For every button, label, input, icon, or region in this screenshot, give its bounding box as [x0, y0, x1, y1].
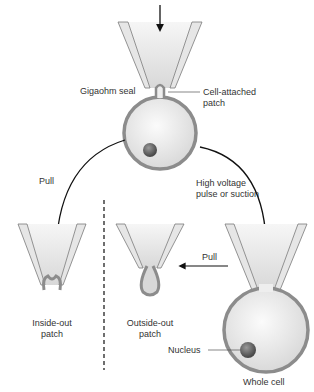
gigaohm-seal-label: Gigaohm seal [80, 86, 136, 97]
cell-attached-label-2: patch [203, 98, 225, 109]
pull-left-label: Pull [39, 176, 54, 187]
top-pipette [118, 22, 202, 88]
high-voltage-label-2: pulse or suction [196, 189, 259, 200]
whole-cell [224, 284, 308, 372]
pull-middle-label: Pull [202, 252, 217, 263]
inside-out-pipette [18, 224, 86, 290]
nucleus-icon [240, 342, 256, 358]
whole-cell-label: Whole cell [243, 377, 285, 388]
outside-out-label-2: patch [120, 329, 180, 340]
nucleus-label: Nucleus [168, 345, 201, 356]
inside-out-label-1: Inside-out [22, 318, 82, 329]
outside-out-pipette [116, 224, 184, 295]
nucleus-icon [143, 143, 157, 157]
high-voltage-label-1: High voltage [196, 178, 246, 189]
whole-cell-pipette [225, 224, 307, 290]
cell-attached-cell [124, 85, 196, 169]
cell-attached-label-1: Cell-attached [203, 87, 256, 98]
inside-out-label-2: patch [22, 329, 82, 340]
outside-out-label-1: Outside-out [120, 318, 180, 329]
